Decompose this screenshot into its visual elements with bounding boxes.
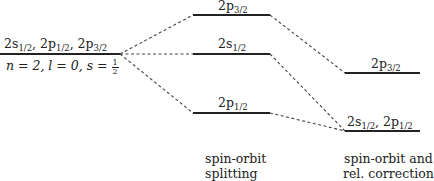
caption-spin-orbit-rel-correction: spin-orbit andrel. correction: [343, 151, 434, 181]
caption-spin-orbit-splitting: spin-orbitsplitting: [205, 151, 266, 181]
label-rel-2s12-2p12: 2s1/2, 2p1/2: [347, 116, 413, 131]
label-so-2p32: 2p3/2: [218, 0, 248, 15]
label-unperturbed-states: 2s1/2, 2p1/2, 2p3/2: [4, 38, 107, 53]
label-so-2p12: 2p1/2: [218, 97, 248, 112]
label-quantum-numbers: n = 2, l = 0, s = 12: [6, 59, 119, 76]
label-rel-2p32: 2p3/2: [371, 58, 401, 73]
label-so-2s12: 2s1/2: [218, 38, 246, 53]
